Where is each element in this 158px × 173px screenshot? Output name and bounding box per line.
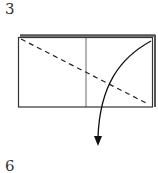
arrowhead-icon: [94, 136, 102, 146]
fold-diagram: [0, 0, 158, 173]
step-number-bottom: 6: [5, 159, 15, 173]
